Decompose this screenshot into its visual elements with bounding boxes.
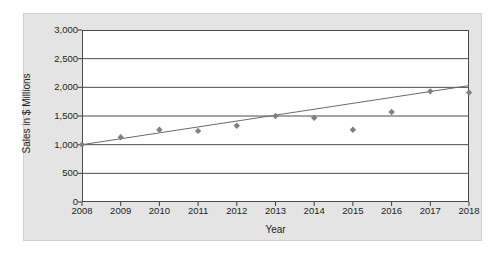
y-axis-tick-labels: 05001,0001,5002,0002,5003,000 — [30, 0, 78, 260]
data-point-marker — [466, 89, 472, 95]
data-point-marker — [311, 115, 317, 121]
y-tick-label: 1,000 — [34, 140, 78, 150]
data-point-marker — [350, 127, 356, 133]
y-tick-label: 500 — [34, 168, 78, 178]
y-axis-title: Sales in $ Millions — [21, 44, 32, 184]
data-point-marker — [427, 88, 433, 94]
y-axis-ticks — [78, 30, 82, 202]
data-point-marker — [79, 141, 85, 147]
x-tick-label: 2016 — [372, 205, 412, 217]
y-tick-label: 2,000 — [34, 82, 78, 92]
chart-figure: 05001,0001,5002,0002,5003,000 2008200920… — [0, 0, 504, 260]
y-tick-label: 1,500 — [34, 111, 78, 121]
x-axis-tick-labels: 2008200920102011201220132014201520162017… — [0, 205, 504, 221]
data-point-marker — [272, 113, 278, 119]
data-point-marker — [388, 109, 394, 115]
x-tick-label: 2013 — [256, 205, 296, 217]
x-tick-label: 2018 — [449, 205, 489, 217]
x-tick-label: 2017 — [410, 205, 450, 217]
y-tick-label: 3,000 — [34, 25, 78, 35]
data-point-marker — [195, 128, 201, 134]
x-tick-label: 2008 — [62, 205, 102, 217]
x-tick-label: 2015 — [333, 205, 373, 217]
y-tick-label: 2,500 — [34, 54, 78, 64]
x-tick-label: 2009 — [101, 205, 141, 217]
x-axis-title: Year — [82, 224, 469, 235]
x-tick-label: 2010 — [139, 205, 179, 217]
data-point-markers — [79, 88, 472, 148]
x-tick-label: 2011 — [178, 205, 218, 217]
data-point-marker — [234, 123, 240, 129]
x-tick-label: 2014 — [294, 205, 334, 217]
data-point-marker — [156, 127, 162, 133]
x-tick-label: 2012 — [217, 205, 257, 217]
